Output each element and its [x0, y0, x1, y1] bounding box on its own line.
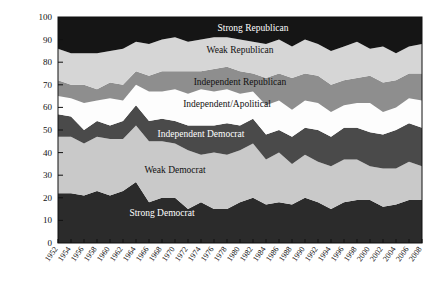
x-axis-tick-label: 1952: [43, 245, 60, 263]
x-axis-tick-label: 1976: [199, 245, 216, 263]
x-axis-tick-label: 1998: [342, 245, 359, 263]
y-axis-tick-label: 30: [43, 170, 53, 180]
x-axis-tick-label: 1978: [212, 245, 229, 263]
x-axis-tick-label: 1966: [134, 245, 151, 263]
x-axis-tick-label: 1970: [160, 245, 177, 263]
x-axis-tick-label: 2000: [355, 245, 372, 263]
y-axis-tick-label: 20: [43, 193, 53, 203]
series-label-weak-republican: Weak Republican: [206, 45, 273, 55]
x-axis-tick-label: 1986: [264, 245, 281, 263]
x-axis-tick-label: 2008: [407, 245, 424, 263]
y-axis-tick-label: 80: [43, 57, 53, 67]
x-axis-tick-label: 2004: [381, 245, 398, 263]
x-axis-tick-label: 1974: [186, 245, 203, 263]
x-axis-tick-label: 2002: [368, 245, 385, 263]
y-axis-tick-label: 70: [43, 80, 53, 90]
series-label-strong-republican: Strong Republican: [218, 23, 289, 33]
x-axis-tick-label: 1962: [108, 245, 125, 263]
x-axis-tick-label: 1958: [82, 245, 99, 263]
series-label-independent-apolitical: Independent/Apolitical: [183, 99, 271, 109]
y-axis-tick-label: 10: [43, 215, 53, 225]
series-label-strong-democrat: Strong Democrat: [129, 208, 195, 218]
x-axis-tick-label: 1956: [69, 245, 86, 263]
series-label-weak-democrat: Weak Democrat: [144, 165, 206, 175]
x-axis-tick-label: 1980: [225, 245, 242, 263]
x-axis-tick-label: 1990: [290, 245, 307, 263]
x-axis-tick-label: 1984: [251, 245, 268, 263]
x-axis-tick-label: 1982: [238, 245, 255, 263]
y-axis-tick-label: 90: [43, 35, 53, 45]
y-axis-tick-label: 50: [43, 125, 53, 135]
x-axis-tick-label: 1954: [56, 245, 73, 263]
y-axis-tick-label: 100: [39, 12, 53, 22]
x-axis-tick-label: 1996: [329, 245, 346, 263]
x-axis-tick-label: 1968: [147, 245, 164, 263]
x-axis-tick-label: 1994: [316, 245, 333, 263]
x-axis-tick-label: 1992: [303, 245, 320, 263]
x-axis-tick-label: 2006: [394, 245, 411, 263]
y-axis-tick-label: 40: [43, 148, 53, 158]
series-label-independent-democrat: Independent Democrat: [158, 129, 245, 139]
x-axis-tick-label: 1964: [121, 245, 138, 263]
x-axis-tick-label: 1988: [277, 245, 294, 263]
y-axis-tick-label: 60: [43, 102, 53, 112]
series-label-independent-republican: Independent Republican: [194, 77, 287, 87]
x-axis-tick-label: 1972: [173, 245, 190, 263]
party-identification-area-chart: 0102030405060708090100195219541956195819…: [0, 0, 436, 295]
chart-svg: 0102030405060708090100195219541956195819…: [0, 0, 436, 295]
x-axis-tick-label: 1960: [95, 245, 112, 263]
